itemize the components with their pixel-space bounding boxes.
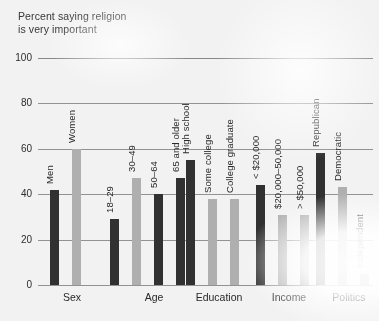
- bar: [186, 160, 195, 285]
- bar: [208, 199, 217, 285]
- bar: [132, 178, 141, 285]
- bar: [72, 149, 81, 285]
- bar-label: Republican: [310, 99, 321, 148]
- bar: [256, 185, 265, 285]
- x-axis-group-label: Sex: [50, 291, 94, 303]
- bar: [300, 215, 309, 285]
- bar: [278, 215, 287, 285]
- bar-label: Democratic: [332, 132, 343, 181]
- bar: [110, 219, 119, 285]
- bar-label: High school: [180, 103, 191, 154]
- bar-label: > $50,000: [294, 165, 305, 208]
- bar-label: 18–29: [104, 186, 115, 213]
- bar-label: Women: [66, 110, 77, 143]
- bar-label: < $20,000: [250, 136, 261, 179]
- bar-group-education: High schoolSome collegeCollege graduateE…: [186, 58, 252, 285]
- bar: [338, 187, 347, 285]
- bar-label: 30–49: [126, 145, 137, 172]
- y-axis-tick-label: 20: [2, 234, 32, 245]
- bar-label: Independent: [354, 214, 365, 268]
- bar-label: Some college: [202, 134, 213, 193]
- bar-label: $20,000–50,000: [272, 139, 283, 209]
- gridline: [38, 285, 373, 286]
- bar: [316, 153, 325, 285]
- bar-group-sex: MenWomenSex: [50, 58, 94, 285]
- bar: [176, 178, 185, 285]
- bar-label: College graduate: [224, 119, 235, 193]
- x-axis-group-label: Education: [186, 291, 252, 303]
- bar-groups: MenWomenSex18–2930–4950–6465 and olderAg…: [38, 58, 373, 285]
- y-axis-tick-label: 100: [2, 52, 32, 63]
- y-axis-tick-label: 80: [2, 97, 32, 108]
- bar: [154, 194, 163, 285]
- chart-title: Percent saying religion is very importan…: [18, 10, 127, 36]
- y-axis-tick-label: 40: [2, 188, 32, 199]
- bar: [50, 190, 59, 285]
- bar-group-income: < $20,000$20,000–50,000> $50,000Income: [256, 58, 322, 285]
- chart-root: Percent saying religion is very importan…: [0, 0, 379, 321]
- bar-group-politics: RepublicanDemocraticIndependentPolitics: [316, 58, 379, 285]
- bar-label: 50–64: [148, 161, 159, 188]
- x-axis-group-label: Age: [110, 291, 198, 303]
- plot-area: 020406080100 MenWomenSex18–2930–4950–646…: [38, 58, 373, 285]
- bar: [230, 199, 239, 285]
- y-axis-tick-label: 60: [2, 143, 32, 154]
- x-axis-group-label: Income: [256, 291, 322, 303]
- bar-label: Men: [44, 165, 55, 184]
- y-axis-tick-label: 0: [2, 279, 32, 290]
- bar: [360, 274, 369, 285]
- bar-group-age: 18–2930–4950–6465 and olderAge: [110, 58, 198, 285]
- x-axis-group-label: Politics: [316, 291, 379, 303]
